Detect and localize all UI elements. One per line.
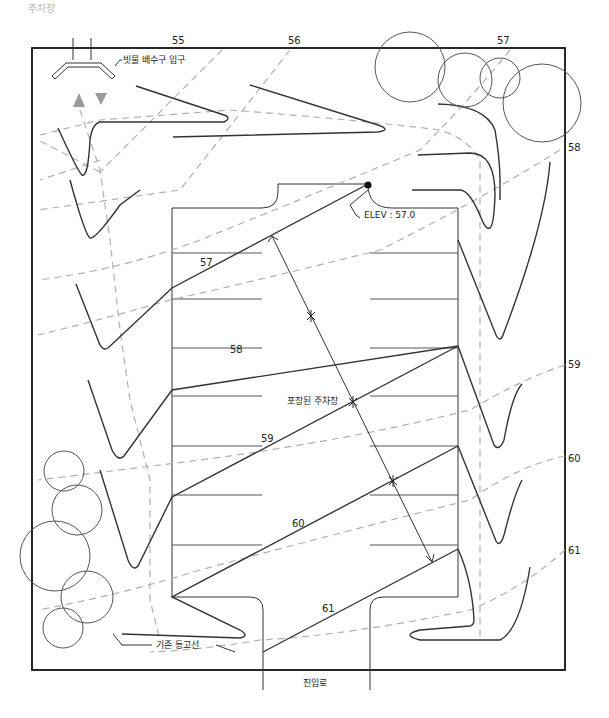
existing-contours xyxy=(38,50,565,652)
existing-contour-leader xyxy=(113,634,152,645)
parking-lot-outline xyxy=(172,184,458,597)
existing-contour-58: 58 xyxy=(568,142,581,153)
elevation-label: ELEV : 57.0 xyxy=(364,210,416,220)
existing-contour-60: 60 xyxy=(568,453,581,464)
arrow-down-icon xyxy=(95,93,107,105)
proposed-contour-60: 60 xyxy=(292,518,305,529)
paved-parking-label: 포장된 주차장 xyxy=(287,395,338,406)
grading-plan-diagram: 빗물 배수구 입구 ELEV : 57.0 포장된 주차장 기존 등고선 진입로… xyxy=(0,0,609,718)
existing-contour-56: 56 xyxy=(288,35,301,46)
site-boundary xyxy=(32,48,565,670)
storm-drain-inlet-label: 빗물 배수구 입구 xyxy=(123,54,185,65)
existing-contour-57: 57 xyxy=(497,35,510,46)
existing-contour-label: 기존 등고선 xyxy=(156,640,199,650)
arrow-up-icon xyxy=(73,93,85,107)
drainage-arrows xyxy=(73,93,107,107)
proposed-contour-59: 59 xyxy=(261,433,274,444)
access-road-label: 진입로 xyxy=(303,677,327,688)
elevation-point-icon xyxy=(365,182,372,189)
proposed-contours xyxy=(58,85,550,652)
proposed-contour-61: 61 xyxy=(322,603,335,614)
proposed-contour-57: 57 xyxy=(200,257,213,268)
existing-contour-leader-right xyxy=(216,645,235,652)
tree-canopy-bottom-left xyxy=(20,451,113,648)
proposed-contour-58: 58 xyxy=(230,344,243,355)
storm-drain-inlet-icon xyxy=(52,38,122,79)
existing-contour-55: 55 xyxy=(172,35,185,46)
existing-contour-61: 61 xyxy=(568,545,581,556)
existing-contour-59: 59 xyxy=(568,359,581,370)
access-road-lines xyxy=(172,597,458,690)
